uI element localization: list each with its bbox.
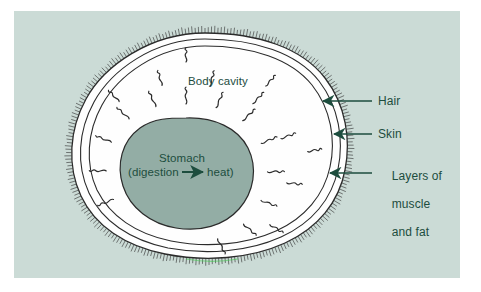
callout-label-hair: Hair: [378, 95, 400, 109]
label-stomach-title: Stomach: [159, 152, 205, 165]
callout-label-layers: Layers of muscle and fat: [378, 156, 442, 253]
callout-label-skin: Skin: [378, 128, 402, 142]
callout-label-layers-line2: muscle: [392, 197, 431, 211]
callout-label-layers-line1: Layers of: [392, 169, 442, 183]
figure-root: Body cavity Stomach (digestion heat) Hai…: [0, 0, 481, 292]
label-body-cavity: Body cavity: [188, 75, 248, 88]
callout-label-layers-line3: and fat: [392, 225, 429, 239]
label-stomach-heat: heat): [207, 166, 234, 179]
label-stomach-digestion: (digestion: [128, 166, 179, 179]
